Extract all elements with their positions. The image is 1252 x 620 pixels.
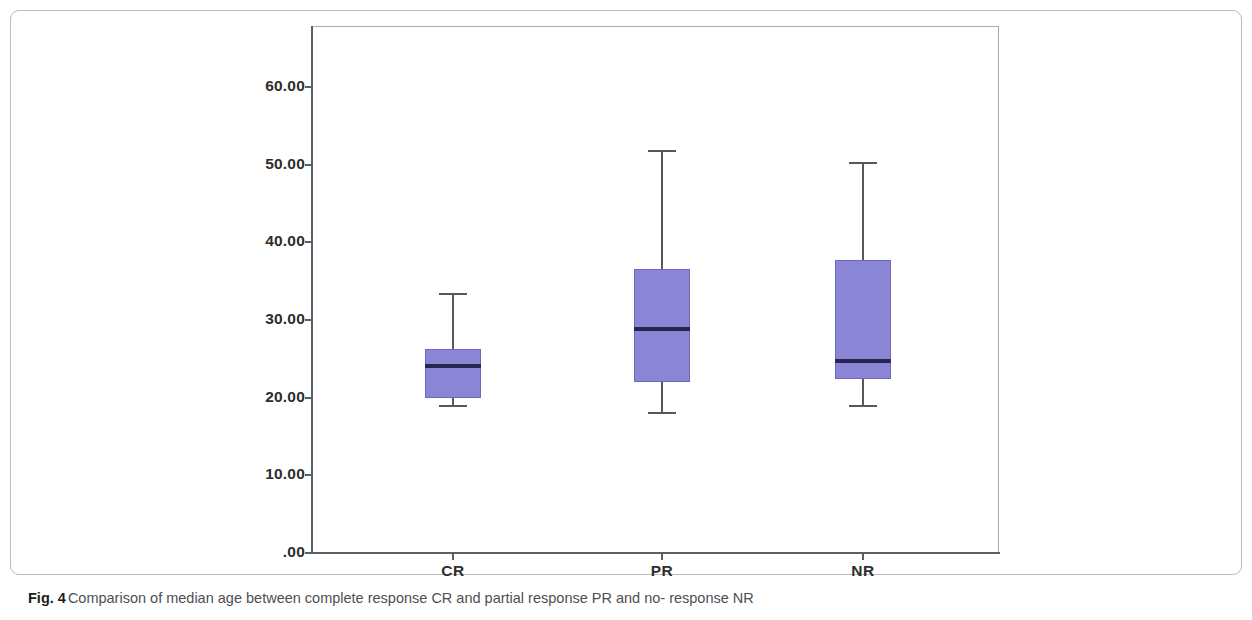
x-axis-tick xyxy=(862,553,864,560)
x-axis-tick xyxy=(661,553,663,560)
y-axis-tick xyxy=(305,164,312,166)
y-axis-tick-label: .00 xyxy=(283,543,305,561)
x-axis-tick-label-pr: PR xyxy=(622,562,702,580)
y-axis-tick-label: 60.00 xyxy=(265,77,305,95)
y-axis-tick xyxy=(305,241,312,243)
lower-whisker-cap xyxy=(849,405,877,407)
figure-caption-label: Fig. 4 xyxy=(28,590,66,606)
figure-caption: Fig. 4Comparison of median age between c… xyxy=(28,589,1228,608)
figure-caption-text: Comparison of median age between complet… xyxy=(68,590,754,606)
upper-whisker-stem xyxy=(661,150,663,269)
y-axis-tick-label: 10.00 xyxy=(265,465,305,483)
upper-whisker-cap xyxy=(849,162,877,164)
x-axis-tick-label-cr: CR xyxy=(413,562,493,580)
box-plot-chart: .0010.0020.0030.0040.0050.0060.00 CRPRNR xyxy=(0,0,1252,580)
x-axis-line xyxy=(311,552,1000,554)
upper-whisker-cap xyxy=(648,150,676,152)
iqr-box xyxy=(634,269,690,382)
y-axis-tick-label: 50.00 xyxy=(265,155,305,173)
upper-whisker-stem xyxy=(862,162,864,261)
y-axis-tick xyxy=(305,86,312,88)
median-line xyxy=(634,327,690,331)
lower-whisker-cap xyxy=(439,405,467,407)
x-axis-tick xyxy=(452,553,454,560)
y-axis-tick xyxy=(305,552,312,554)
upper-whisker-stem xyxy=(452,293,454,349)
lower-whisker-stem xyxy=(661,382,663,412)
lower-whisker-stem xyxy=(862,379,864,405)
y-axis-tick-label: 40.00 xyxy=(265,232,305,250)
upper-whisker-cap xyxy=(439,293,467,295)
lower-whisker-cap xyxy=(648,412,676,414)
y-axis-tick-label: 20.00 xyxy=(265,388,305,406)
y-axis-tick-label: 30.00 xyxy=(265,310,305,328)
lower-whisker-stem xyxy=(452,398,454,405)
y-axis-tick xyxy=(305,319,312,321)
y-axis-tick xyxy=(305,474,312,476)
median-line xyxy=(425,364,481,368)
x-axis-tick-label-nr: NR xyxy=(823,562,903,580)
y-axis-tick xyxy=(305,397,312,399)
figure-root: .0010.0020.0030.0040.0050.0060.00 CRPRNR… xyxy=(0,0,1252,620)
median-line xyxy=(835,359,891,363)
iqr-box xyxy=(425,349,481,398)
